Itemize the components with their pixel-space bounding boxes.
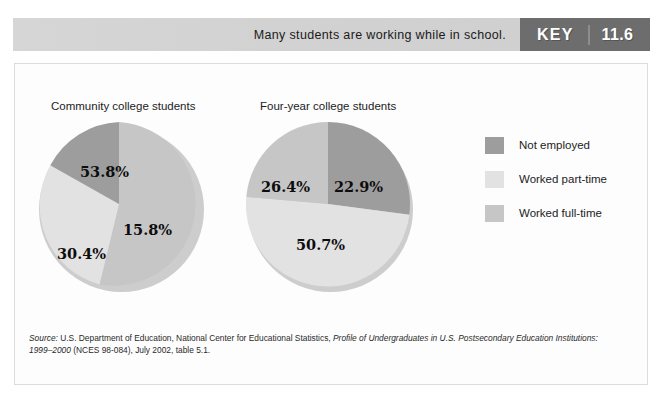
source-line1-plain: U.S. Department of Education, National C…	[58, 333, 333, 343]
legend-swatch-worked-part-time	[485, 171, 504, 188]
slice-label-left-not-employed: 15.8%	[123, 221, 172, 238]
legend-label-worked-part-time: Worked part-time	[519, 173, 607, 185]
key-divider	[588, 25, 590, 45]
source-line2-italic: 1999–2000	[29, 345, 71, 355]
legend-label-worked-full-time: Worked full-time	[519, 207, 602, 219]
slice-label-right-part-time: 50.7%	[296, 236, 345, 253]
legend-label-not-employed: Not employed	[519, 139, 590, 151]
pie-chart-community-college: Community college students 53.8% 15.8% 3…	[35, 100, 207, 296]
banner-title: Many students are working while in schoo…	[254, 28, 506, 42]
key-label: KEY	[520, 26, 574, 44]
legend-item-worked-part-time: Worked part-time	[485, 162, 607, 196]
legend-item-worked-full-time: Worked full-time	[485, 196, 607, 230]
slice-label-left-part-time: 30.4%	[57, 245, 106, 262]
pie-wrap-right: 26.4% 22.9% 50.7%	[244, 120, 416, 296]
pie-svg-right	[244, 120, 416, 296]
source-note: Source: U.S. Department of Education, Na…	[29, 333, 635, 356]
slice-label-right-full-time: 26.4%	[261, 178, 310, 195]
source-prefix: Source:	[29, 333, 58, 343]
slice-right-not-employed	[328, 122, 410, 215]
slice-label-right-not-employed: 22.9%	[334, 178, 383, 195]
chart-panel: Community college students 53.8% 15.8% 3…	[14, 63, 648, 385]
pie-caption-left: Community college students	[51, 100, 207, 112]
pie-svg-left	[35, 120, 207, 296]
pie-caption-right: Four-year college students	[260, 100, 416, 112]
pie-chart-four-year-college: Four-year college students 26.4% 22.9% 5…	[244, 100, 416, 296]
key-banner: Many students are working while in schoo…	[13, 18, 650, 51]
source-line1-italic: Profile of Undergraduates in U.S. Postse…	[333, 333, 598, 343]
legend-swatch-worked-full-time	[485, 205, 504, 222]
legend: Not employed Worked part-time Worked ful…	[485, 128, 607, 230]
source-line2-plain: (NCES 98-084), July 2002, table 5.1.	[71, 345, 210, 355]
banner-title-area: Many students are working while in schoo…	[13, 18, 520, 51]
legend-swatch-not-employed	[485, 137, 504, 154]
key-number: 11.6	[602, 26, 634, 44]
key-badge: KEY 11.6	[520, 18, 650, 51]
pie-wrap-left: 53.8% 15.8% 30.4%	[35, 120, 207, 296]
legend-item-not-employed: Not employed	[485, 128, 607, 162]
slice-label-left-full-time: 53.8%	[80, 163, 129, 180]
